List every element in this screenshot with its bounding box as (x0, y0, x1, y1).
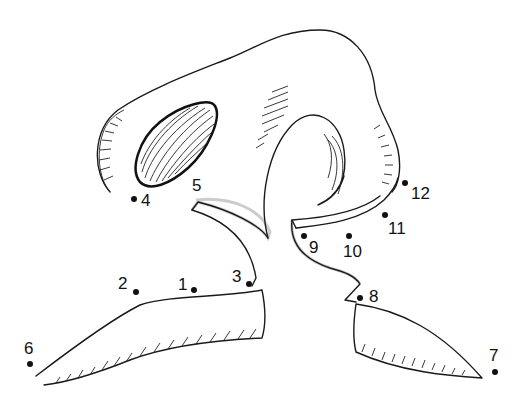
svg-text:3: 3 (232, 267, 241, 286)
dot-1[interactable]: 1 (178, 275, 197, 294)
dot-6[interactable]: 6 (24, 339, 33, 367)
dot-11[interactable]: 11 (382, 212, 406, 238)
right-lower-ala (354, 304, 482, 378)
svg-text:4: 4 (141, 191, 150, 210)
svg-text:10: 10 (343, 242, 362, 261)
dot-12[interactable]: 12 (402, 180, 430, 203)
left-lower-ala (36, 290, 265, 385)
dot-10[interactable]: 10 (343, 233, 362, 261)
dot-2[interactable]: 2 (118, 274, 139, 295)
svg-text:11: 11 (388, 219, 406, 238)
svg-text:12: 12 (411, 184, 430, 203)
dot-7[interactable]: 7 (489, 346, 498, 375)
dot-5[interactable]: 5 (192, 176, 201, 195)
svg-text:1: 1 (178, 275, 187, 294)
svg-text:5: 5 (192, 176, 201, 195)
left-nostril (136, 103, 217, 187)
septum-shape (192, 178, 398, 302)
dot-8[interactable]: 8 (357, 287, 378, 306)
svg-text:9: 9 (309, 238, 318, 257)
svg-text:8: 8 (369, 287, 378, 306)
dot-4[interactable]: 4 (131, 191, 150, 210)
svg-text:6: 6 (24, 339, 33, 358)
svg-text:7: 7 (489, 346, 498, 365)
numbered-dots: 1 2 3 4 5 6 7 8 9 10 11 12 (24, 176, 498, 375)
svg-text:2: 2 (118, 274, 127, 293)
dot-to-dot-nose-illustration: 1 2 3 4 5 6 7 8 9 10 11 12 (0, 0, 521, 405)
dot-3[interactable]: 3 (232, 267, 252, 287)
